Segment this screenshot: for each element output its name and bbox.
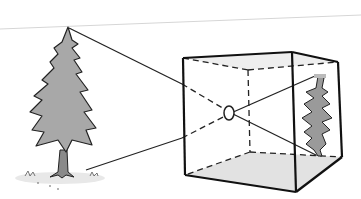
- illustration-canvas: [0, 0, 361, 199]
- tree-icon: [30, 27, 96, 178]
- pinhole-icon: [224, 106, 234, 120]
- horizon-line: [0, 15, 361, 29]
- inverted-tree-image-icon: [302, 74, 332, 156]
- camera-obscura-illustration: [0, 0, 361, 199]
- light-rays: [69, 28, 320, 170]
